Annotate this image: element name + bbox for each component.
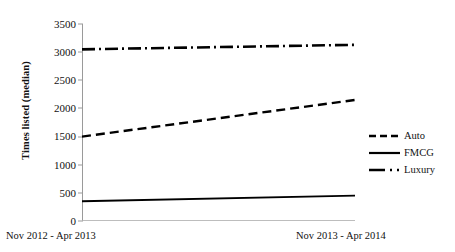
plot-area <box>82 24 355 221</box>
series-line-fmcg <box>82 196 355 202</box>
series-line-auto <box>82 100 355 137</box>
chart-legend: Auto FMCG Luxury <box>368 127 454 178</box>
y-tick-label: 3500 <box>54 19 76 30</box>
series-line-luxury <box>82 45 355 50</box>
y-tick-label: 3000 <box>54 47 76 58</box>
x-tick-label-left: Nov 2012 - Apr 2013 <box>6 230 96 241</box>
y-axis-tick-labels: 3500 3000 2500 2000 1500 1000 500 0 <box>24 0 76 252</box>
legend-label: Luxury <box>404 164 435 175</box>
legend-key-solid-icon <box>368 148 400 158</box>
y-tick-label: 500 <box>60 188 77 199</box>
y-tick-label: 1500 <box>54 131 76 142</box>
y-tick-label: 0 <box>71 216 77 227</box>
x-tick-label-right: Nov 2013 - Apr 2014 <box>296 230 386 241</box>
legend-item-auto: Auto <box>368 127 454 144</box>
legend-label: Auto <box>404 130 425 141</box>
line-chart: Times listed (median) 3500 3000 2500 200… <box>0 0 455 252</box>
legend-key-dashdot-icon <box>368 165 400 175</box>
legend-label: FMCG <box>404 147 434 158</box>
y-tick-label: 2000 <box>54 103 76 114</box>
legend-key-dashed-icon <box>368 131 400 141</box>
legend-item-luxury: Luxury <box>368 161 454 178</box>
series-lines <box>82 24 355 221</box>
y-tick-label: 1000 <box>54 160 76 171</box>
y-tick-label: 2500 <box>54 75 76 86</box>
legend-item-fmcg: FMCG <box>368 144 454 161</box>
